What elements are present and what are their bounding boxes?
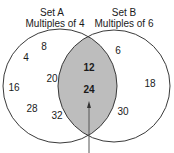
intersection-value: 24 xyxy=(83,84,94,95)
set-a-title: Set A xyxy=(40,7,64,18)
set-a-value: 4 xyxy=(23,52,29,63)
set-b-title: Set B xyxy=(112,7,136,18)
set-a-value: 8 xyxy=(41,41,47,52)
set-a-value: 28 xyxy=(26,103,37,114)
set-b-value: 30 xyxy=(117,106,128,117)
set-a-description: Multiples of 4 xyxy=(26,18,85,29)
set-a-value: 20 xyxy=(46,73,57,84)
set-b-value: 6 xyxy=(115,45,121,56)
set-b-description: Multiples of 6 xyxy=(95,18,154,29)
set-b-value: 18 xyxy=(144,78,155,89)
intersection-value: 12 xyxy=(83,62,94,73)
set-a-value: 16 xyxy=(8,82,19,93)
set-a-value: 32 xyxy=(51,110,62,121)
